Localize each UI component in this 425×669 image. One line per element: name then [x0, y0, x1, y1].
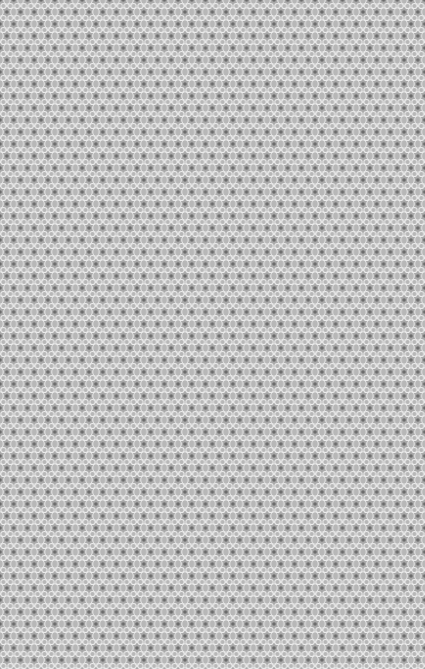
pattern-texture	[0, 0, 425, 669]
star-lattice-pattern	[0, 0, 425, 669]
